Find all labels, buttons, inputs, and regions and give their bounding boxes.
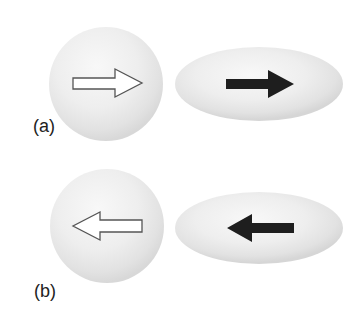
panel-label-a: (a) — [33, 116, 55, 136]
diagram-canvas — [0, 0, 364, 324]
panel-label-b: (b) — [34, 281, 56, 301]
panel-b — [50, 169, 343, 283]
panel-a — [49, 27, 343, 141]
